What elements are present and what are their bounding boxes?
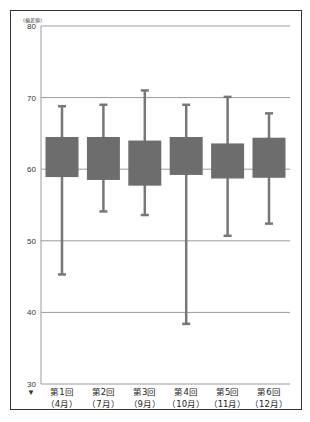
y-tick-60: 60 [27,165,36,174]
x-label-5-line1: 第5回 [216,387,239,397]
axis-marker-icon: ▼ [27,388,35,397]
box-2 [87,137,120,180]
box-1 [46,137,79,177]
x-label-3-line2: （9月） [129,399,161,409]
y-tick-50: 50 [27,237,36,246]
x-label-3-line1: 第3回 [133,387,156,397]
x-label-6-line2: （12月） [250,399,288,409]
y-tick-70: 70 [27,94,36,103]
box-6 [253,138,286,178]
x-label-5-line2: （11月） [209,399,247,409]
box-4 [170,137,203,175]
y-tick-40: 40 [27,308,36,317]
box-5 [211,143,244,178]
x-label-4-line1: 第4回 [174,387,197,397]
boxplot-chart: (偏差値)304050607080▼第1回（4月）第2回（7月）第3回（9月）第… [0,0,310,422]
x-label-4-line2: （10月） [167,399,205,409]
x-label-6-line1: 第6回 [257,387,280,397]
y-tick-80: 80 [27,22,36,31]
x-label-1-line1: 第1回 [50,387,73,397]
x-label-1-line2: （4月） [46,399,78,409]
x-label-2-line2: （7月） [87,399,119,409]
x-label-2-line1: 第2回 [92,387,115,397]
box-3 [128,141,161,186]
